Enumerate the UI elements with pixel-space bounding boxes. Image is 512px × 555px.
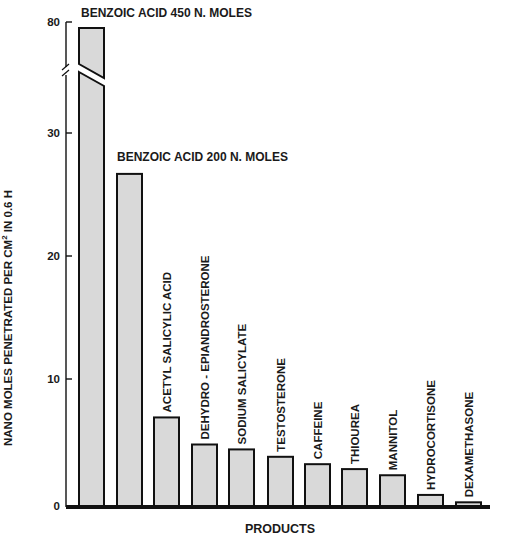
bar — [154, 417, 179, 506]
bar-label: ACETYL SALICYLIC ACID — [161, 272, 173, 413]
y-tick-label: 0 — [54, 500, 60, 512]
bar-label: BENZOIC ACID 450 N. MOLES — [81, 6, 252, 20]
bar-label: MANNITOL — [387, 410, 399, 470]
y-axis: 010203080 — [47, 16, 72, 512]
bar-label: CAFFEINE — [312, 401, 324, 459]
bar-label: THIOUREA — [349, 404, 361, 464]
bar-label: HYDROCORTISONE — [425, 380, 437, 490]
y-tick-label: 10 — [47, 373, 60, 385]
bar — [305, 464, 330, 506]
y-tick-label: 30 — [47, 127, 60, 139]
bar — [418, 495, 443, 506]
bar-label: DEHYDRO - EPIANDROSTERONE — [199, 255, 211, 439]
y-tick-label: 20 — [47, 250, 60, 262]
bar-label: TESTOSTERONE — [275, 358, 287, 452]
y-tick-label: 80 — [47, 16, 60, 28]
bar-upper-segment — [79, 28, 104, 78]
y-axis-label: NANO MOLES PENETRATED PER CM2 IN 0.6 H — [0, 190, 14, 446]
bar — [268, 457, 293, 506]
bar — [192, 445, 217, 507]
bar-label: BENZOIC ACID 200 N. MOLES — [117, 150, 288, 164]
bar — [380, 475, 405, 506]
bar-label: DEXAMETHASONE — [463, 392, 475, 498]
bar — [117, 174, 142, 506]
bar — [229, 449, 254, 506]
bar — [342, 469, 367, 506]
bar-chart: 010203080 BENZOIC ACID 450 N. MOLESBENZO… — [0, 0, 512, 555]
bar-lower-segment — [79, 72, 104, 506]
bar-label: SODIUM SALICYLATE — [236, 324, 248, 445]
x-axis-label: PRODUCTS — [245, 522, 315, 536]
